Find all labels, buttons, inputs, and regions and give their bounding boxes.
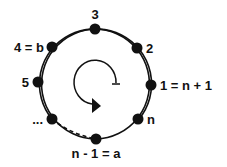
node-label: ... <box>32 112 43 127</box>
node-label: n <box>147 112 155 127</box>
node-dot <box>33 77 44 88</box>
node-n: n <box>133 112 156 127</box>
node-a: n - 1 = a <box>72 134 122 162</box>
node-dot <box>90 24 101 35</box>
node-dot <box>47 42 58 53</box>
node-label: 1 = n + 1 <box>160 78 212 93</box>
node-label: 4 = b <box>14 40 44 55</box>
node-1: 1 = n + 1 <box>146 78 213 93</box>
node-dot <box>146 80 157 91</box>
node-label: 2 <box>146 41 153 56</box>
node-label: 5 <box>22 75 29 90</box>
dashed-segment <box>52 119 96 139</box>
cycle-diagram: 321 = n + 1nn - 1 = a...54 = b <box>0 0 227 167</box>
node-3: 3 <box>90 7 101 35</box>
node-dot <box>132 43 143 54</box>
node-dot <box>91 134 102 145</box>
node-dot <box>133 114 144 125</box>
node-label: 3 <box>91 7 98 22</box>
rotation-arrow-icon <box>74 60 120 113</box>
node-label: n - 1 = a <box>72 146 122 161</box>
node-dot <box>47 114 58 125</box>
node-dots: ... <box>32 112 57 127</box>
